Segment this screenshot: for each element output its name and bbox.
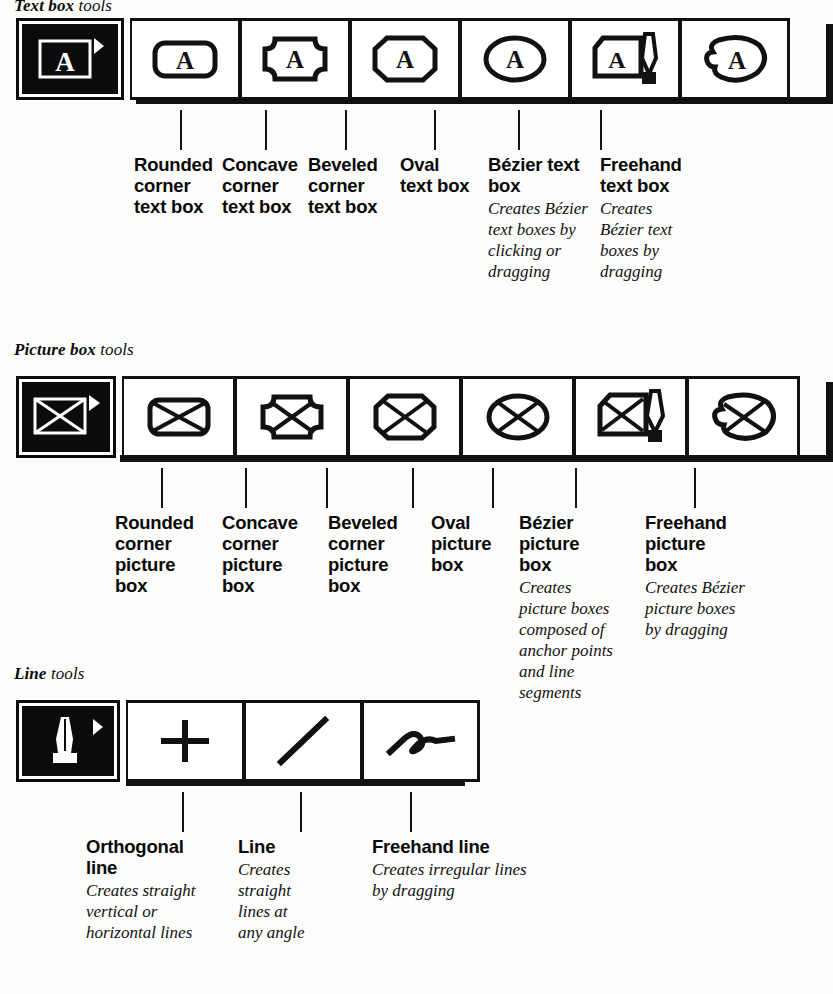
tool-cell-line[interactable]: [244, 700, 362, 782]
oval-text-box-icon: A: [477, 29, 553, 89]
leader-line: [345, 110, 347, 150]
svg-text:A: A: [396, 46, 414, 73]
section-heading-strong: Text box: [14, 0, 74, 15]
svg-text:A: A: [286, 46, 304, 73]
caption-oval-text-box: Oval text box: [400, 154, 484, 198]
leader-line: [300, 792, 302, 832]
caption-desc: Creates straight lines at any angle: [238, 859, 316, 943]
section-heading-strong: Line: [14, 664, 47, 683]
beveled-corner-text-box-icon: A: [367, 29, 443, 89]
tool-cell-picture-box-tool[interactable]: [16, 376, 116, 458]
tool-cell-freehand-line[interactable]: [362, 700, 480, 782]
caption-title: Concave corner text box: [222, 154, 302, 217]
caption-orthogonal-line: Orthogonal line Creates straight vertica…: [86, 836, 214, 943]
caption-desc: Creates irregular lines by dragging: [372, 859, 542, 901]
section-heading-light: tools: [51, 664, 85, 683]
caption-bezier-picture-box: Bézier picture box Creates picture boxes…: [519, 512, 619, 703]
section-heading-line: Line tools: [14, 664, 84, 684]
caption-desc: Creates Bézier text boxes by clicking or…: [488, 198, 592, 282]
rounded-corner-text-box-icon: A: [147, 31, 223, 87]
caption-title: Freehand picture box: [645, 512, 753, 575]
caption-title: Beveled corner text box: [308, 154, 392, 217]
caption-title: Beveled corner picture box: [328, 512, 412, 596]
caption-title: Bézier picture box: [519, 512, 619, 575]
freehand-text-box-icon: A: [695, 29, 775, 89]
caption-title: Oval text box: [400, 154, 484, 196]
section-heading-light: tools: [100, 340, 134, 359]
leader-line: [326, 468, 328, 508]
caption-title: Oval picture box: [431, 512, 513, 575]
caption-title: Concave corner picture box: [222, 512, 304, 596]
concave-corner-text-box-icon: A: [257, 29, 333, 89]
bezier-line-tool-icon: [31, 713, 105, 769]
section-heading-text-box: Text box tools: [14, 0, 112, 16]
section-heading-light: tools: [79, 0, 113, 15]
caption-title: Bézier text box: [488, 154, 592, 196]
caption-beveled-corner-text-box: Beveled corner text box: [308, 154, 392, 219]
caption-rounded-corner-picture-box: Rounded corner picture box: [115, 512, 201, 598]
tool-cell-concave-corner-text-box[interactable]: A: [240, 18, 350, 100]
leader-line: [492, 468, 494, 508]
tool-cell-orthogonal-line[interactable]: [126, 700, 244, 782]
caption-title: Line: [238, 836, 316, 857]
leader-line: [600, 110, 602, 150]
tool-cell-rounded-corner-text-box[interactable]: A: [130, 18, 240, 100]
oval-picture-box-icon: [479, 387, 557, 447]
picture-box-tool-icon: [30, 391, 102, 443]
svg-text:A: A: [727, 47, 745, 74]
tool-cell-text-box-tool[interactable]: A: [16, 18, 124, 100]
caption-desc: Creates picture boxes composed of anchor…: [519, 577, 619, 703]
rounded-corner-picture-box-icon: [140, 389, 218, 445]
caption-desc: Creates straight vertical or horizontal …: [86, 880, 214, 943]
beveled-corner-picture-box-icon: [366, 387, 444, 447]
caption-rounded-corner-text-box: Rounded corner text box: [134, 154, 218, 219]
caption-desc: Creates Bézier text boxes by dragging: [600, 198, 692, 282]
caption-title: Freehand line: [372, 836, 542, 857]
manual-page: Text box tools A A A: [0, 0, 833, 994]
leader-line: [575, 468, 577, 508]
caption-title: Orthogonal line: [86, 836, 214, 878]
tool-cell-oval-picture-box[interactable]: [461, 376, 574, 458]
tool-cell-beveled-corner-picture-box[interactable]: [348, 376, 461, 458]
line-icon: [271, 712, 335, 770]
caption-freehand-line: Freehand line Creates irregular lines by…: [372, 836, 542, 901]
tool-cell-bezier-picture-box[interactable]: [574, 376, 687, 458]
toolbar-shadow-text-box: [826, 24, 833, 104]
leader-line: [182, 792, 184, 832]
leader-line: [434, 110, 436, 150]
leader-line: [180, 110, 182, 150]
caption-desc: Creates Bézier picture boxes by dragging: [645, 577, 753, 640]
tool-cell-beveled-corner-text-box[interactable]: A: [350, 18, 460, 100]
leader-line: [410, 792, 412, 832]
caption-title: Freehand text box: [600, 154, 692, 196]
bezier-picture-box-icon: [588, 386, 674, 448]
tool-cell-bezier-line-tool[interactable]: [16, 700, 120, 782]
tool-cell-rounded-corner-picture-box[interactable]: [122, 376, 235, 458]
toolbar-text-box[interactable]: A A A A A: [16, 18, 790, 100]
orthogonal-line-icon: [153, 712, 217, 770]
bezier-text-box-icon: A: [583, 28, 667, 90]
section-heading-picture-box: Picture box tools: [14, 340, 134, 360]
svg-text:A: A: [176, 47, 194, 74]
freehand-line-icon: [382, 712, 460, 770]
toolbar-shadow-picture-box: [826, 382, 833, 462]
toolbar-line[interactable]: [16, 700, 480, 782]
toolbar-picture-box[interactable]: [16, 376, 800, 458]
caption-oval-picture-box: Oval picture box: [431, 512, 513, 577]
svg-text:A: A: [55, 47, 75, 77]
leader-line: [245, 468, 247, 508]
svg-text:A: A: [608, 47, 626, 73]
caption-concave-corner-text-box: Concave corner text box: [222, 154, 302, 219]
caption-freehand-text-box: Freehand text box Creates Bézier text bo…: [600, 154, 692, 282]
svg-text:A: A: [506, 46, 524, 73]
caption-title: Rounded corner picture box: [115, 512, 201, 596]
caption-line: Line Creates straight lines at any angle: [238, 836, 316, 943]
freehand-picture-box-icon: [702, 387, 784, 447]
tool-cell-oval-text-box[interactable]: A: [460, 18, 570, 100]
tool-cell-freehand-text-box[interactable]: A: [680, 18, 790, 100]
leader-line: [265, 110, 267, 150]
leader-line: [694, 468, 696, 508]
tool-cell-freehand-picture-box[interactable]: [687, 376, 800, 458]
tool-cell-concave-corner-picture-box[interactable]: [235, 376, 348, 458]
tool-cell-bezier-text-box[interactable]: A: [570, 18, 680, 100]
